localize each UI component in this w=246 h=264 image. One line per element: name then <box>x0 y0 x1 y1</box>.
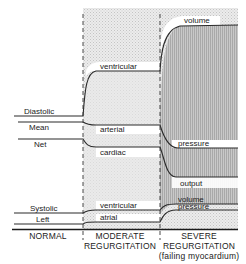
label-left: Left <box>36 215 50 224</box>
label-ventricular-top: ventricular <box>100 62 137 71</box>
phase-moderate-label-1: MODERATE <box>95 231 144 241</box>
label-mean: Mean <box>29 123 49 132</box>
label-atrial: atrial <box>100 213 118 222</box>
label-net: Net <box>34 140 47 149</box>
label-diastolic: Diastolic <box>24 107 54 116</box>
label-arterial: arterial <box>100 125 125 134</box>
phase-moderate-label-2: REGURGITATION <box>84 241 156 251</box>
label-pressure-bottom: pressure <box>178 202 210 211</box>
phase-normal-label: NORMAL <box>29 231 67 241</box>
label-cardiac: cardiac <box>100 148 126 157</box>
label-systolic: Systolic <box>30 204 58 213</box>
regurgitation-diagram: Diastolic Mean Net Systolic Left ventric… <box>0 0 246 264</box>
label-volume-top: volume <box>184 16 210 25</box>
phase-severe-label-3: (failing myocardium) <box>159 251 240 261</box>
label-ventricular-bottom: ventricular <box>100 201 137 210</box>
phase-severe-label-2: REGURGITATION <box>163 241 235 251</box>
phase-severe-label-1: SEVERE <box>181 231 217 241</box>
moderate-volume-band <box>83 71 160 213</box>
label-pressure-mid: pressure <box>178 139 210 148</box>
label-output: output <box>180 179 203 188</box>
